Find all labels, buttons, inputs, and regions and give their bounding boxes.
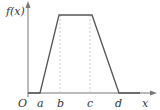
function-curve xyxy=(28,15,140,93)
x-axis-arrow-icon xyxy=(150,91,157,96)
tick-label-d: d xyxy=(115,97,122,110)
y-axis-arrow-icon xyxy=(26,1,31,8)
tick-label-a: a xyxy=(37,97,44,110)
y-axis-label: f(x) xyxy=(5,5,25,18)
tick-label-b: b xyxy=(57,97,64,110)
trapezoid-function-plot: f(x) O a b c d x xyxy=(0,0,160,110)
origin-label: O xyxy=(18,97,27,110)
tick-label-c: c xyxy=(87,97,93,110)
x-axis-label: x xyxy=(142,97,149,110)
